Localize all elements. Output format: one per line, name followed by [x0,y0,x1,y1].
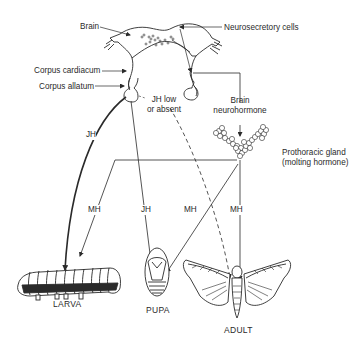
label-brain-neurohormone-line2: neurohormone [208,106,272,116]
label-jh-low-line1: JH low [142,95,186,105]
jh-to-larva-arrow [65,97,126,270]
label-corpus-allatum: Corpus allatum [39,82,94,92]
label-brain: Brain [80,22,99,32]
label-prothoracic-gland-line1: Prothoracic gland [282,148,348,158]
pupa-illustration [145,248,169,296]
diagram-graphics [0,0,364,344]
label-neurosecretory-cells: Neurosecretory cells [224,23,299,33]
adult-moth-illustration [183,260,290,318]
label-brain-neurohormone: Brain neurohormone [208,96,272,115]
larva-illustration [18,268,121,300]
arrow-label-jh-pupa: JH [141,205,151,215]
label-jh-low-or-absent: JH low or absent [142,95,186,114]
mh-to-larva-arrow [80,160,237,256]
arrow-label-mh-adult: MH [230,205,243,215]
label-brain-neurohormone-line1: Brain [208,96,272,106]
jh-to-pupa-arrow [131,101,152,270]
label-jh-low-line2: or absent [142,105,186,115]
label-pointers [95,27,222,86]
metamorphosis-diagram: Brain Neurosecretory cells Corpus cardia… [0,0,364,344]
stage-label-adult: ADULT [224,326,253,336]
label-corpus-cardiacum: Corpus cardiacum [34,66,100,76]
arrow-label-jh-larva: JH [86,130,96,140]
label-prothoracic-gland-line2: (molting hormone) [282,158,348,168]
prothoracic-gland [213,124,268,158]
brain-structure [104,24,222,102]
label-prothoracic-gland: Prothoracic gland (molting hormone) [282,148,348,167]
arrow-label-mh-larva: MH [88,205,101,215]
mh-to-pupa-arrow [167,164,238,272]
arrow-label-mh-pupa: MH [184,205,197,215]
stage-label-larva: LARVA [53,300,82,310]
stage-label-pupa: PUPA [146,306,170,316]
